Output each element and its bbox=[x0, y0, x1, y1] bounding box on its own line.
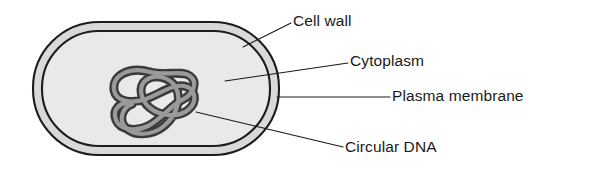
label-cell-wall: Cell wall bbox=[293, 12, 352, 29]
label-circular-dna: Circular DNA bbox=[345, 138, 437, 155]
label-plasma-membrane: Plasma membrane bbox=[392, 87, 524, 104]
diagram-canvas: Cell wall Cytoplasm Plasma membrane Circ… bbox=[0, 0, 597, 177]
label-cytoplasm: Cytoplasm bbox=[350, 52, 424, 69]
bacterial-cell-diagram: Cell wall Cytoplasm Plasma membrane Circ… bbox=[0, 0, 597, 177]
